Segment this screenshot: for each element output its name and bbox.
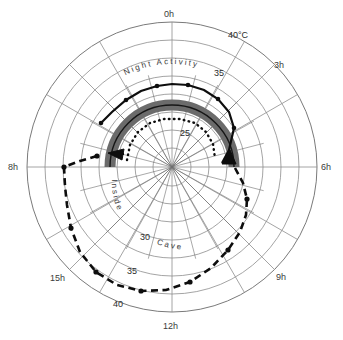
hour-label-0h: 0h [164,9,174,19]
polar-chart: Night Activity Inside Cave 40°C 35 25 30… [0,0,343,340]
hour-label-15h: 15h [50,273,65,283]
inner-dotted-curve [127,119,215,160]
hour-label-3h: 3h [274,60,284,70]
spoke-min-6 [172,167,264,191]
hour-label-9h: 9h [276,272,286,282]
data-point [124,98,129,103]
hour-label-12h: 12h [163,321,178,331]
data-point [68,225,73,230]
data-point [216,97,221,102]
tick-temp-40-upper: 40°C [228,30,249,40]
tick-temp-40-lower: 40 [113,299,123,309]
hour-label-6h: 6h [321,162,331,172]
tick-temp-35-lower: 35 [127,266,137,276]
data-point [187,279,192,284]
data-point [155,84,160,89]
data-point [225,247,230,252]
data-point [244,196,249,201]
spoke-min-15 [80,167,172,191]
spoke-min-8 [172,167,238,233]
polar-chart-svg: Night Activity Inside Cave 40°C 35 25 30… [0,0,343,340]
tick-temp-35-upper: 35 [214,68,224,78]
tick-temp-25: 25 [180,128,190,138]
data-point [61,164,66,169]
data-point [138,288,143,293]
spoke-min-16 [80,143,172,167]
hour-label-8h: 8h [8,162,18,172]
data-point [93,269,98,274]
series-outside-dashed [61,153,249,293]
data-point [232,126,237,131]
data-point [99,121,104,126]
tick-temp-30: 30 [140,232,150,242]
data-point [186,83,191,88]
night-activity-label: Night Activity [122,57,200,77]
spoke-min-5 [172,143,264,167]
series-inner-dotted [127,119,215,160]
data-point [94,153,99,158]
